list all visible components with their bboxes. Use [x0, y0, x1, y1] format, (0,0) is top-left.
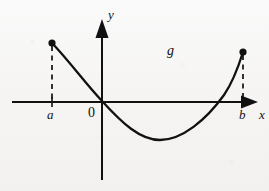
curve-g	[52, 43, 243, 140]
figure-canvas: y x a b 0 g	[0, 0, 269, 191]
endpoint-dot-b	[239, 48, 246, 55]
x-tick-label-b: b	[239, 108, 246, 121]
y-axis-arrowhead	[96, 19, 109, 38]
x-tick-label-a: a	[47, 108, 54, 121]
endpoint-dot-a	[48, 39, 55, 46]
curve-name-label: g	[167, 44, 174, 58]
origin-label: 0	[88, 106, 95, 120]
x-axis-label: x	[259, 108, 265, 121]
graph-plot	[0, 0, 269, 191]
y-axis-label: y	[108, 8, 114, 21]
